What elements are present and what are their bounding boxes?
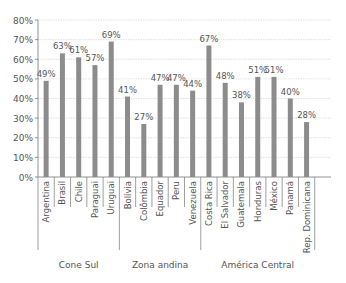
- y-tick-label: 30%: [13, 114, 33, 124]
- value-label: 28%: [297, 110, 316, 120]
- value-label: 48%: [216, 71, 235, 81]
- bar: [255, 77, 260, 177]
- value-label: 69%: [102, 30, 121, 40]
- y-tick-label: 0%: [19, 173, 34, 183]
- bar: [272, 77, 277, 177]
- value-label: 27%: [134, 112, 153, 122]
- category-label: Colômbia: [139, 181, 149, 221]
- bar: [174, 85, 179, 177]
- bar: [223, 83, 228, 177]
- y-tick-label: 40%: [13, 94, 33, 104]
- value-label: 40%: [281, 87, 300, 97]
- bar: [288, 99, 293, 178]
- bar: [92, 65, 97, 177]
- bar: [141, 124, 146, 177]
- group-label: América Central: [221, 260, 294, 270]
- bar-chart: 0%10%20%30%40%50%60%70%80%49%63%61%57%69…: [0, 0, 346, 283]
- category-label: Chile: [74, 181, 84, 202]
- bar: [60, 53, 65, 177]
- value-label: 51%: [265, 65, 284, 75]
- category-label: Uruguai: [106, 181, 116, 214]
- bar: [158, 85, 163, 177]
- value-label: 49%: [37, 69, 56, 79]
- category-label: Venezuela: [188, 181, 198, 225]
- bar: [109, 42, 114, 177]
- y-tick-label: 70%: [13, 35, 33, 45]
- category-label: Brasil: [57, 181, 67, 205]
- y-tick-label: 50%: [13, 74, 33, 84]
- group-label: Cone Sul: [59, 260, 99, 270]
- category-label: Paraguai: [90, 181, 100, 218]
- y-tick-label: 10%: [13, 153, 33, 163]
- value-label: 41%: [118, 85, 137, 95]
- category-label: El Salvador: [220, 180, 230, 228]
- category-label: Peru: [171, 181, 181, 200]
- category-label: Rep. Dominicana: [302, 181, 312, 253]
- y-tick-label: 20%: [13, 133, 33, 143]
- value-label: 67%: [199, 34, 218, 44]
- value-label: 38%: [232, 90, 251, 100]
- category-label: Panamá: [285, 181, 295, 215]
- bar: [44, 81, 49, 177]
- bar: [125, 97, 130, 177]
- category-label: Honduras: [253, 180, 263, 221]
- bar: [304, 122, 309, 177]
- value-label: 57%: [86, 53, 105, 63]
- bar: [206, 46, 211, 177]
- bar: [76, 57, 81, 177]
- y-tick-label: 60%: [13, 55, 33, 65]
- y-tick-label: 80%: [13, 16, 33, 26]
- category-label: Bolívia: [123, 181, 133, 209]
- category-label: México: [269, 181, 279, 211]
- group-label: Zona andina: [132, 260, 188, 270]
- bar: [190, 91, 195, 177]
- category-label: Argentina: [41, 181, 51, 222]
- value-label: 44%: [183, 79, 202, 89]
- category-label: Costa Rica: [204, 181, 214, 226]
- bar: [239, 102, 244, 177]
- category-label: Equador: [155, 180, 165, 216]
- category-label: Guatemala: [236, 181, 246, 228]
